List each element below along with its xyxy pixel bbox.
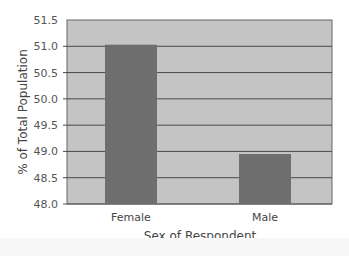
y-tick-label: 50.5: [34, 67, 59, 80]
bar-male: [239, 154, 291, 204]
bar-female: [105, 45, 157, 204]
y-axis-label: % of Total Population: [16, 49, 30, 174]
bar-chart: 48.048.549.049.550.050.551.051.5 FemaleM…: [0, 0, 349, 256]
y-tick-label: 49.5: [34, 119, 59, 132]
page-footer-strip: [0, 238, 349, 256]
y-tick-label: 49.0: [34, 145, 59, 158]
x-tick-label: Male: [252, 211, 278, 224]
y-tick-label: 51.5: [34, 14, 59, 27]
y-axis-ticks: 48.048.549.049.550.050.551.051.5: [34, 14, 59, 211]
y-tick-label: 50.0: [34, 93, 59, 106]
y-tick-label: 48.0: [34, 198, 59, 211]
y-tick-label: 51.0: [34, 40, 59, 53]
x-tick-label: Female: [111, 211, 151, 224]
y-tick-label: 48.5: [34, 172, 59, 185]
x-axis-labels: FemaleMale: [111, 211, 278, 224]
